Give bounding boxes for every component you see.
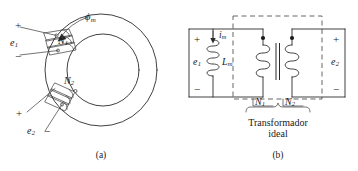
magnetizing-branch <box>207 29 219 97</box>
caption-panel-a: (a) <box>76 151 126 161</box>
flux-label: ϕm <box>85 12 96 23</box>
primary-turns-label-b: N1 <box>255 97 265 108</box>
secondary-emf-label-a: e2 <box>27 126 35 137</box>
secondary-winding-n2 <box>45 83 77 111</box>
magnetizing-inductance-label: Lm <box>222 57 233 68</box>
primary-leads <box>20 27 58 55</box>
primary-turns-label-a: N1 <box>58 36 68 47</box>
ideal-transformer-dashed-boundary <box>233 16 322 99</box>
primary-polarity-dot <box>261 36 265 40</box>
primary-minus-sign-a: − <box>15 51 21 62</box>
primary-emf-label-b: e1 <box>193 57 201 68</box>
secondary-plus-sign-b: + <box>333 34 339 45</box>
primary-minus-sign-b: − <box>194 84 200 95</box>
secondary-emf-label-b: e2 <box>331 57 339 68</box>
primary-plus-sign-a: + <box>15 20 21 31</box>
transformer-core-lines <box>276 43 280 80</box>
ideal-transformer-line1: Transformador <box>228 117 328 128</box>
ideal-transformer-label: Transformador ideal <box>228 117 328 139</box>
secondary-plus-sign-a: + <box>16 108 22 119</box>
secondary-turns-label-b: N2 <box>285 97 295 108</box>
magnetizing-current-label: im <box>219 31 226 41</box>
secondary-turns-label-a: N2 <box>64 76 74 87</box>
figure-artwork <box>0 0 358 171</box>
secondary-minus-sign-a: − <box>44 126 50 137</box>
ideal-transformer-line2: ideal <box>228 128 328 139</box>
primary-emf-label-a: e1 <box>10 38 18 49</box>
secondary-minus-sign-b: − <box>333 84 339 95</box>
figure-container: ϕm e1 + − N1 N2 + e2 − (a) + − e1 im Lm … <box>0 0 358 171</box>
caption-panel-b: (b) <box>253 151 303 161</box>
secondary-polarity-dot <box>290 36 294 40</box>
primary-plus-sign-b: + <box>194 34 200 45</box>
